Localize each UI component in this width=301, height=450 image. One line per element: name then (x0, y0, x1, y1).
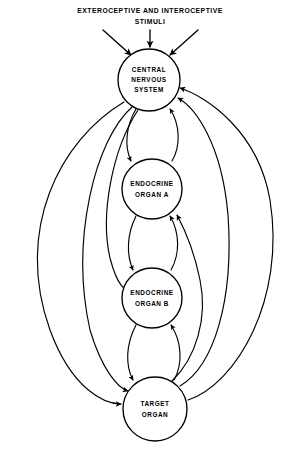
node-endocrine-organ-b (122, 268, 182, 328)
node-endocrine-b-label-line1: ENDOCRINE (130, 289, 173, 296)
edge-endocrine-a-to-endocrine-b (128, 216, 136, 270)
node-endocrine-b-label-line2: ORGAN B (135, 300, 169, 307)
node-target-label-line1: TARGET (140, 400, 169, 407)
node-target-label-line2: ORGAN (142, 411, 169, 418)
node-cns-label-line2: NERVOUS (131, 76, 167, 83)
edge-endocrine-a-to-cns (170, 109, 178, 161)
figure-canvas: EXTEROCEPTIVE AND INTEROCEPTIVE STIMULI (0, 0, 301, 450)
node-endocrine-a-label-line2: ORGAN A (135, 191, 169, 198)
bypass-arc-left-outer (37, 102, 124, 404)
feedback-arc-right-middle (178, 98, 229, 386)
bypass-arc-left-middle (83, 107, 132, 391)
node-target-organ (123, 377, 187, 441)
edge-endocrine-b-to-target (128, 325, 136, 380)
edge-endocrine-b-to-endocrine-a (170, 216, 178, 270)
feedback-arc-right-outer (180, 88, 273, 400)
stimulus-arrow-right (170, 30, 198, 55)
node-cns-label-line1: CENTRAL (132, 66, 166, 73)
stimuli-label-line1: EXTEROCEPTIVE AND INTEROCEPTIVE (77, 7, 223, 14)
stimuli-label-line2: STIMULI (135, 18, 166, 25)
node-cns-label-line3: SYSTEM (134, 86, 164, 93)
edge-cns-to-endocrine-a (127, 109, 136, 161)
endocrine-feedback-diagram: EXTEROCEPTIVE AND INTEROCEPTIVE STIMULI (0, 0, 301, 450)
node-endocrine-organ-a (122, 159, 182, 219)
edge-target-to-endocrine-b (171, 325, 180, 380)
stimulus-arrow-left (103, 30, 131, 55)
node-endocrine-a-label-line1: ENDOCRINE (130, 180, 173, 187)
